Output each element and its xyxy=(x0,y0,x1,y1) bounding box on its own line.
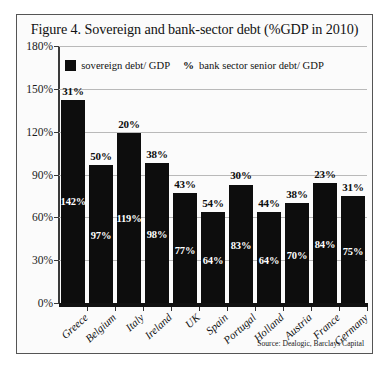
bar-value-label-sovereign: 97% xyxy=(89,230,114,241)
x-axis-tick-mark xyxy=(227,307,228,311)
y-axis-tick-label: 60% xyxy=(17,211,53,223)
y-axis-tick-mark xyxy=(54,260,59,261)
y-axis-tick-label: 90% xyxy=(17,169,53,181)
bar-value-label-sovereign: 64% xyxy=(201,255,226,266)
gridline xyxy=(59,89,367,90)
bar-value-label-bank: 43% xyxy=(155,178,215,190)
x-axis-tick-mark xyxy=(283,307,284,311)
x-axis-tick-mark xyxy=(339,307,340,311)
bar-value-label-sovereign: 119% xyxy=(117,213,142,224)
y-axis-tick-label: 0% xyxy=(17,297,53,309)
bar-value-label-bank: 31% xyxy=(43,85,103,97)
bar-austria: 70% xyxy=(285,203,310,303)
bar-germany: 75% xyxy=(341,196,366,303)
x-axis-category-label-uk: UK xyxy=(183,311,202,330)
bar-value-label-sovereign: 83% xyxy=(229,240,254,251)
bar-value-label-sovereign: 142% xyxy=(61,196,86,207)
x-axis-category-label-italy: Italy xyxy=(123,311,146,333)
y-axis-tick-mark xyxy=(54,132,59,133)
bar-value-label-bank: 31% xyxy=(323,181,383,193)
bar-value-label-sovereign: 64% xyxy=(257,255,282,266)
bar-value-label-bank: 38% xyxy=(127,148,187,160)
bar-holland: 64% xyxy=(257,212,282,303)
gridline xyxy=(59,132,367,133)
bar-uk: 77% xyxy=(173,193,198,303)
y-axis-tick-mark xyxy=(54,46,59,47)
bar-spain: 64% xyxy=(201,212,226,303)
x-axis-category-label-belgium: Belgium xyxy=(83,311,118,344)
x-axis-category-label-austria: Austria xyxy=(282,311,314,342)
y-axis-tick-mark xyxy=(54,89,59,90)
x-axis-tick-mark xyxy=(311,307,312,311)
page-title: Figure 4. Sovereign and bank-sector debt… xyxy=(17,21,372,38)
bar-belgium: 97% xyxy=(89,165,114,303)
bar-greece: 142% xyxy=(61,100,86,303)
y-axis-tick-label: 30% xyxy=(17,254,53,266)
x-axis-line xyxy=(59,303,368,307)
y-axis-tick-mark xyxy=(54,217,59,218)
bar-france: 84% xyxy=(313,183,338,303)
x-axis-tick-mark xyxy=(367,307,368,311)
x-axis-tick-mark xyxy=(143,307,144,311)
bar-value-label-bank: 30% xyxy=(211,169,271,181)
x-axis-tick-mark xyxy=(171,307,172,311)
bar-value-label-sovereign: 84% xyxy=(313,239,338,250)
bar-value-label-bank: 20% xyxy=(99,118,159,130)
y-axis-tick-mark xyxy=(54,303,59,304)
gridline xyxy=(59,46,367,47)
y-axis-tick-label: 120% xyxy=(17,126,53,138)
bar-value-label-sovereign: 98% xyxy=(145,229,170,240)
x-axis-tick-mark xyxy=(115,307,116,311)
y-axis-tick-label: 180% xyxy=(17,40,53,52)
y-axis-tick-mark xyxy=(54,175,59,176)
x-axis-tick-mark xyxy=(199,307,200,311)
source-note: Source: Dealogic, Barclays Capital xyxy=(257,339,364,348)
bar-value-label-bank: 23% xyxy=(295,168,355,180)
x-axis-tick-mark xyxy=(87,307,88,311)
figure-frame: Figure 4. Sovereign and bank-sector debt… xyxy=(16,14,373,354)
x-axis-tick-mark xyxy=(255,307,256,311)
bar-value-label-sovereign: 70% xyxy=(285,250,310,261)
bar-value-label-sovereign: 75% xyxy=(341,246,366,257)
bar-value-label-sovereign: 77% xyxy=(173,245,198,256)
x-axis-category-label-ireland: Ireland xyxy=(142,311,174,341)
plot-area: 142%31%97%50%119%20%98%38%77%43%64%54%83… xyxy=(59,46,367,303)
y-axis-labels: 0%30%60%90%120%150%180% xyxy=(17,15,53,355)
